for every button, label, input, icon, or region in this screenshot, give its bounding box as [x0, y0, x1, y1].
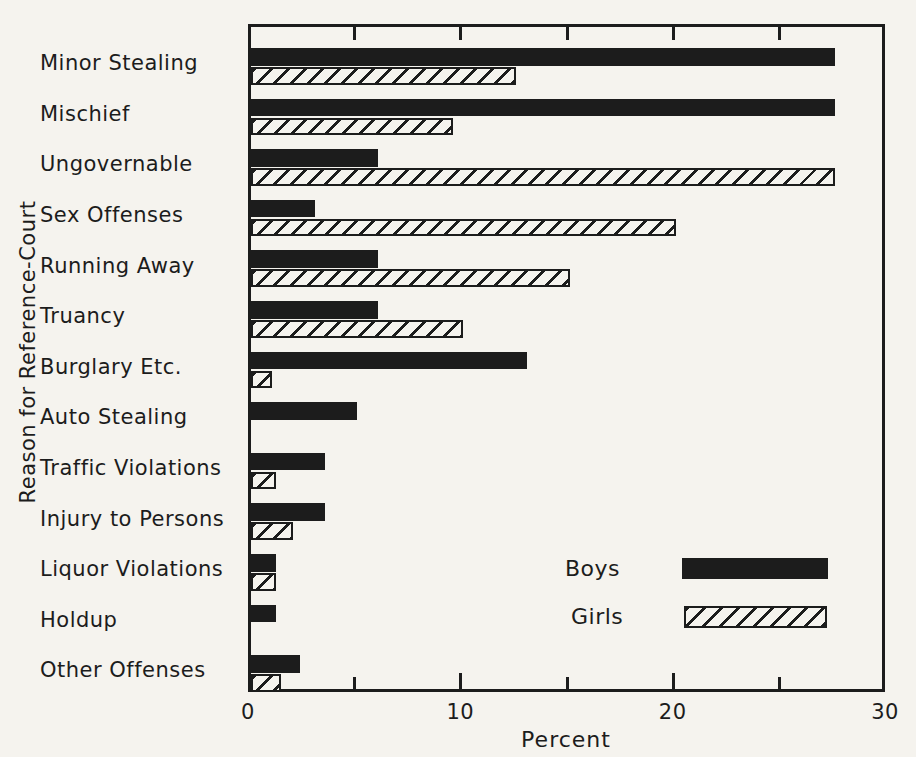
bar-boys [251, 453, 325, 471]
category-label: Truancy [40, 301, 245, 331]
axis-tick-top [778, 27, 781, 40]
bar-girls [251, 674, 281, 692]
category-label: Traffic Violations [40, 453, 245, 483]
axis-tick-bottom [459, 673, 462, 689]
bar-boys [251, 402, 357, 420]
axis-tick-top [353, 27, 356, 40]
bar-girls [251, 67, 516, 85]
category-label: Liquor Violations [40, 554, 245, 584]
bar-girls [251, 522, 293, 540]
axis-tick-bottom [672, 673, 675, 689]
axis-tick-bottom [353, 677, 356, 689]
bar-boys [251, 250, 378, 268]
bar-girls [251, 168, 835, 186]
bar-girls [251, 371, 272, 389]
category-label: Holdup [40, 605, 245, 635]
legend-label-boys: Boys [565, 556, 620, 581]
plot-area [248, 24, 885, 692]
axis-tick-top [672, 27, 675, 40]
category-label: Running Away [40, 251, 245, 281]
x-axis-title: Percent [521, 727, 611, 752]
bar-boys [251, 503, 325, 521]
bar-boys [251, 554, 276, 572]
bar-boys [251, 605, 276, 623]
bar-boys [251, 149, 378, 167]
category-label: Auto Stealing [40, 402, 245, 432]
bar-boys [251, 301, 378, 319]
bar-boys [251, 655, 300, 673]
bar-girls [251, 320, 463, 338]
legend-swatch-boys-icon [682, 558, 828, 579]
category-label: Sex Offenses [40, 200, 245, 230]
category-label: Other Offenses [40, 655, 245, 685]
y-axis-title: Reason for Reference-Court [16, 201, 40, 504]
x-tick-label: 30 [871, 700, 899, 724]
bar-girls [251, 472, 276, 490]
category-label: Minor Stealing [40, 48, 245, 78]
bar-boys [251, 48, 835, 66]
x-tick-label: 20 [659, 700, 687, 724]
category-label: Ungovernable [40, 149, 245, 179]
category-label: Burglary Etc. [40, 352, 245, 382]
bar-boys [251, 200, 315, 218]
bar-girls [251, 573, 276, 591]
bar-girls [251, 118, 453, 136]
axis-tick-bottom [566, 677, 569, 689]
figure-canvas: Reason for Reference-Court Minor Stealin… [0, 0, 916, 757]
x-tick-label: 10 [446, 700, 474, 724]
x-tick-label: 0 [241, 700, 255, 724]
legend-swatch-girls-icon [684, 606, 827, 628]
category-label: Mischief [40, 99, 245, 129]
bar-boys [251, 352, 527, 370]
axis-tick-top [459, 27, 462, 40]
axis-tick-bottom [778, 677, 781, 689]
axis-tick-top [566, 27, 569, 40]
legend-label-girls: Girls [571, 604, 623, 629]
bar-girls [251, 219, 676, 237]
category-label: Injury to Persons [40, 504, 245, 534]
bar-girls [251, 269, 570, 287]
bar-boys [251, 99, 835, 117]
